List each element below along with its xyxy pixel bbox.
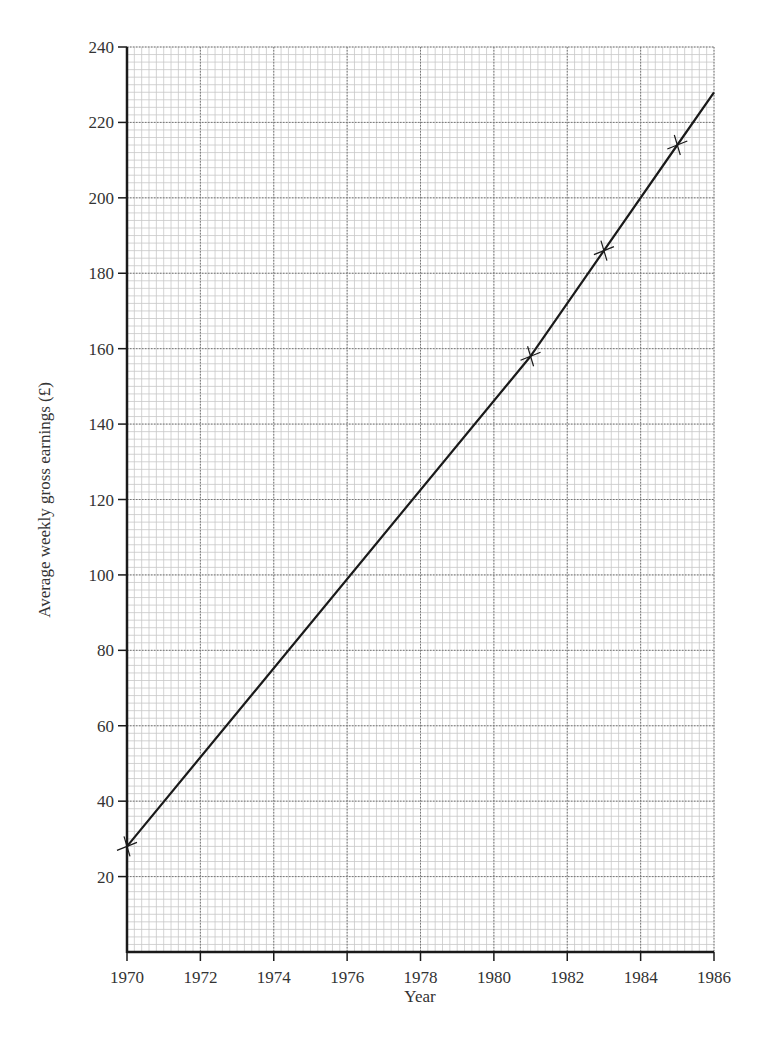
y-tick-label: 120 — [89, 491, 115, 510]
y-tick-label: 180 — [89, 264, 115, 283]
x-tick-label: 1986 — [697, 968, 731, 987]
x-tick-label: 1978 — [404, 968, 438, 987]
y-tick-label: 240 — [89, 38, 115, 57]
data-series — [117, 92, 714, 856]
x-axis-title: Year — [404, 987, 436, 1006]
y-tick-label: 100 — [89, 566, 115, 585]
y-tick-label: 80 — [97, 641, 114, 660]
y-tick-label: 140 — [89, 415, 115, 434]
x-tick-label: 1970 — [110, 968, 144, 987]
x-tick-label: 1984 — [624, 968, 659, 987]
y-tick-label: 200 — [89, 189, 115, 208]
x-axis-ticks: 197019721974197619781980198219841986 — [110, 952, 731, 987]
y-tick-label: 160 — [89, 340, 115, 359]
x-tick-label: 1982 — [550, 968, 584, 987]
y-tick-label: 40 — [97, 792, 114, 811]
x-tick-label: 1976 — [330, 968, 364, 987]
y-axis-ticks: 20406080100120140160180200220240 — [89, 38, 128, 887]
y-tick-label: 220 — [89, 113, 115, 132]
x-tick-label: 1980 — [477, 968, 511, 987]
x-tick-label: 1974 — [257, 968, 292, 987]
y-axis-title: Average weekly gross earnings (£) — [35, 382, 54, 618]
x-tick-label: 1972 — [183, 968, 217, 987]
line-chart: 20406080100120140160180200220240 1970197… — [0, 0, 780, 1049]
y-tick-label: 60 — [97, 717, 114, 736]
y-tick-label: 20 — [97, 868, 114, 887]
